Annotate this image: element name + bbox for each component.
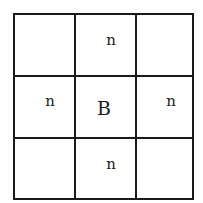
cell-bottom-neighbor: n	[106, 157, 116, 172]
grid-line-horizontal-1	[15, 75, 192, 77]
grid-line-vertical-1	[74, 15, 76, 198]
grid-line-vertical-2	[135, 15, 137, 198]
cell-right-neighbor: n	[166, 94, 176, 109]
cell-center-b: B	[97, 99, 111, 118]
cell-top-neighbor: n	[106, 33, 116, 48]
grid-line-horizontal-2	[15, 137, 192, 139]
cell-left-neighbor: n	[45, 94, 55, 109]
